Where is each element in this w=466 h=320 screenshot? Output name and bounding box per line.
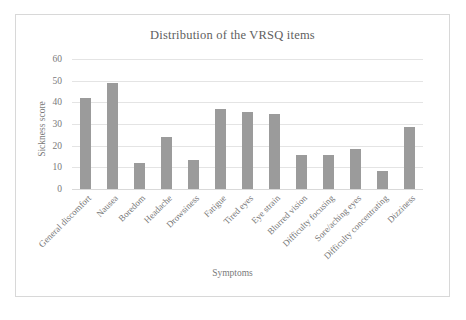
x-tick-slot: Tired eyes xyxy=(234,191,261,265)
bar-slot xyxy=(207,59,234,189)
x-tick-slot: Drowsiness xyxy=(180,191,207,265)
bar-slot xyxy=(342,59,369,189)
y-tick-label: 0 xyxy=(57,184,62,194)
y-axis-title: Sickness score xyxy=(37,81,47,177)
x-tick-slot: Boredom xyxy=(126,191,153,265)
x-tick-slot: Nausea xyxy=(99,191,126,265)
bar[interactable] xyxy=(134,163,145,189)
bar[interactable] xyxy=(350,149,361,189)
x-tick-slot: Headache xyxy=(153,191,180,265)
plot-area xyxy=(72,59,423,189)
bar[interactable] xyxy=(269,114,280,189)
chart-title: Distribution of the VRSQ items xyxy=(16,28,449,43)
bar[interactable] xyxy=(377,171,388,189)
bar-slot xyxy=(288,59,315,189)
x-tick-slot: General discomfort xyxy=(72,191,99,265)
x-tick-slot: Fatigue xyxy=(207,191,234,265)
bar[interactable] xyxy=(296,155,307,189)
bar[interactable] xyxy=(80,98,91,189)
bar[interactable] xyxy=(323,155,334,189)
x-tick-slot: Difficulty concentrating xyxy=(369,191,396,265)
x-axis-tick-labels: General discomfortNauseaBoredomHeadacheD… xyxy=(72,191,423,265)
y-tick-label: 10 xyxy=(53,162,63,172)
x-axis-title: Symptoms xyxy=(16,268,449,278)
bar[interactable] xyxy=(404,127,415,189)
bar-slot xyxy=(315,59,342,189)
x-tick-label: General discomfort xyxy=(36,193,92,249)
chart-figure: Distribution of the VRSQ items 60 50 40 … xyxy=(15,14,450,297)
bar-series xyxy=(72,59,423,189)
bar[interactable] xyxy=(161,137,172,189)
bar-slot xyxy=(72,59,99,189)
bar-slot xyxy=(180,59,207,189)
bar[interactable] xyxy=(242,112,253,189)
bar-slot xyxy=(261,59,288,189)
bar[interactable] xyxy=(215,109,226,189)
x-tick-slot: Dizziness xyxy=(396,191,423,265)
y-tick-label: 50 xyxy=(53,76,63,86)
bar-slot xyxy=(234,59,261,189)
y-tick-label: 40 xyxy=(53,97,63,107)
bar-slot xyxy=(153,59,180,189)
axis-baseline xyxy=(72,189,423,190)
bar-slot xyxy=(99,59,126,189)
bar-slot xyxy=(396,59,423,189)
y-tick-label: 20 xyxy=(53,141,63,151)
bar-slot xyxy=(369,59,396,189)
bar[interactable] xyxy=(107,83,118,189)
bar[interactable] xyxy=(188,160,199,189)
bar-slot xyxy=(126,59,153,189)
y-tick-label: 30 xyxy=(53,119,63,129)
y-tick-label: 60 xyxy=(53,54,63,64)
